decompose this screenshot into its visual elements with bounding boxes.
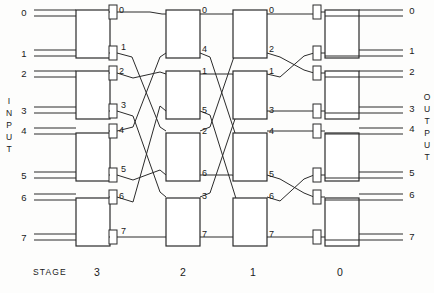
- s1-link-label-2: 1: [269, 66, 274, 76]
- s3-link-label-0: 0: [119, 5, 124, 15]
- connector-s0-in-6: [313, 190, 321, 204]
- switch-box-s1-1[interactable]: [233, 71, 267, 119]
- s1-link-label-3: 3: [269, 105, 274, 115]
- s3-link-label-5: 5: [121, 164, 126, 174]
- output-label-6: 6: [409, 189, 414, 200]
- input-lines: [34, 10, 76, 240]
- switch-box-s0-1[interactable]: [325, 71, 359, 119]
- stage-row: STAGE 3 2 1 0: [33, 266, 343, 278]
- s1-link-label-4: 4: [269, 126, 274, 136]
- s3-link-label-2: 2: [119, 66, 124, 76]
- switch-box-s2-0[interactable]: [166, 10, 200, 58]
- connector-s0-in-7: [313, 230, 321, 244]
- s3-link-label-7: 7: [121, 226, 126, 236]
- input-label-7: 7: [21, 232, 26, 243]
- input-char-3: U: [6, 132, 12, 142]
- input-char-4: T: [6, 144, 11, 154]
- switch-box-s1-3[interactable]: [233, 198, 267, 246]
- switch-box-s3-0[interactable]: [76, 10, 110, 58]
- input-label-1: 1: [21, 48, 26, 59]
- output-char-1: U: [424, 104, 430, 114]
- s1-link-label-6: 5: [269, 169, 274, 179]
- s1-link-label-0: 0: [269, 5, 274, 15]
- switch-box-s0-3[interactable]: [325, 198, 359, 246]
- connector-s3-out-7: [109, 230, 117, 244]
- input-char-2: P: [6, 120, 12, 130]
- network-svg: 0 1 2 3 4 5 6 7 0 1 2 3 4 5 6 7 0 1 2 3 …: [0, 0, 434, 293]
- switch-box-s1-0[interactable]: [233, 10, 267, 58]
- connector-s0-in-0: [313, 5, 321, 19]
- stage3-switches[interactable]: [76, 10, 110, 246]
- input-label-0: 0: [21, 7, 26, 18]
- s3-link-label-4: 4: [119, 125, 124, 135]
- connector-s0-in-1: [313, 46, 321, 60]
- connector-s0-in-2: [313, 66, 321, 80]
- s1-link-label-7: 7: [269, 229, 274, 239]
- s2-link-label-0: 0: [202, 5, 207, 15]
- connector-s3-out-1: [109, 46, 117, 60]
- stage1-switches[interactable]: [233, 10, 267, 246]
- switch-box-s2-3[interactable]: [166, 198, 200, 246]
- stage2-switches[interactable]: [166, 10, 200, 246]
- s2-link-label-1: 4: [202, 44, 207, 54]
- switch-box-s3-2[interactable]: [76, 133, 110, 181]
- output-side-label: O U T P U T: [424, 92, 431, 162]
- stage3-link-labels: 0 1 2 3 4 5 6 7: [119, 5, 126, 236]
- connector-s3-out-4: [109, 124, 117, 138]
- s3-link-label-3: 3: [121, 100, 126, 110]
- s3-link-label-1: 1: [121, 42, 126, 52]
- switch-box-s0-2[interactable]: [325, 133, 359, 181]
- connector-s3-out-0: [109, 5, 117, 19]
- stage0-switches[interactable]: [325, 10, 359, 246]
- input-char-1: N: [6, 108, 12, 118]
- switch-box-s2-1[interactable]: [166, 71, 200, 119]
- input-label-4: 4: [21, 125, 26, 136]
- stage-number-1: 1: [250, 266, 256, 278]
- switch-box-s1-2[interactable]: [233, 133, 267, 181]
- s2-link-label-2: 1: [202, 66, 207, 76]
- s2-link-label-4: 2: [202, 126, 207, 136]
- s2-link-label-7: 7: [202, 229, 207, 239]
- network-diagram-figure: 0 1 2 3 4 5 6 7 0 1 2 3 4 5 6 7 0 1 2 3 …: [0, 0, 434, 293]
- stage1-link-labels: 0 2 1 3 4 6 5 7: [269, 5, 274, 239]
- output-char-5: T: [424, 152, 429, 162]
- switch-box-s3-3[interactable]: [76, 198, 110, 246]
- output-char-3: P: [424, 128, 430, 138]
- s2-link-label-3: 5: [202, 105, 207, 115]
- output-char-4: U: [424, 140, 430, 150]
- output-char-0: O: [424, 92, 431, 102]
- connector-s0-in-3: [313, 104, 321, 118]
- s2-link-label-5: 6: [202, 168, 207, 178]
- switch-box-s0-0[interactable]: [325, 10, 359, 58]
- input-label-6: 6: [21, 192, 26, 203]
- links-stage1-to-stage0: [267, 14, 314, 237]
- switch-box-s3-1[interactable]: [76, 71, 110, 119]
- output-port-labels: 0 1 2 3 4 5 6 7: [409, 5, 414, 242]
- output-label-7: 7: [409, 231, 414, 242]
- output-label-0: 0: [409, 5, 414, 16]
- connector-s3-out-3: [109, 104, 117, 118]
- input-char-0: I: [8, 96, 10, 106]
- output-label-1: 1: [409, 45, 414, 56]
- output-label-2: 2: [409, 66, 414, 77]
- input-port-labels: 0 1 2 3 4 5 6 7: [21, 7, 26, 243]
- input-side-label: I N P U T: [6, 96, 12, 154]
- output-label-4: 4: [409, 123, 414, 134]
- connector-s3-out-5: [109, 168, 117, 182]
- connector-s0-in-4: [313, 124, 321, 138]
- stage-number-3: 3: [94, 266, 100, 278]
- connector-s3-out-6: [109, 190, 117, 204]
- switch-box-s2-2[interactable]: [166, 133, 200, 181]
- stage-number-0: 0: [337, 266, 343, 278]
- s3-link-label-6: 6: [119, 191, 124, 201]
- stage0-connectors: [313, 5, 321, 244]
- connector-s0-in-5: [313, 168, 321, 182]
- connector-s3-out-2: [109, 66, 117, 80]
- output-label-5: 5: [409, 167, 414, 178]
- stage-number-2: 2: [180, 266, 186, 278]
- input-label-2: 2: [21, 68, 26, 79]
- input-label-5: 5: [21, 170, 26, 181]
- stage2-link-labels: 0 4 1 5 2 6 3 7: [202, 5, 207, 239]
- stage0-stubs: [321, 12, 325, 237]
- output-char-2: T: [424, 116, 429, 126]
